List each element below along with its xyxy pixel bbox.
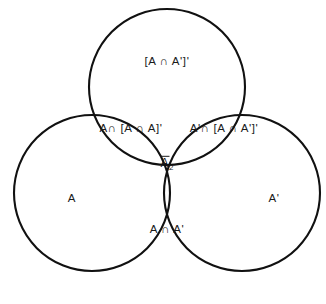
top-circle [89, 9, 245, 165]
left-circle [14, 115, 170, 271]
right-circle [164, 115, 320, 271]
label-bottom-region: A ∩ A' [150, 224, 185, 236]
label-right-circle: A' [268, 193, 279, 205]
label-center-region: A2 [160, 156, 173, 172]
label-left-middle-region: A∩ [A ∩ A]' [99, 123, 162, 135]
venn-diagram: [A ∩ A']' A∩ [A ∩ A]' A'∩ [A ∩ A']' A2 A… [0, 0, 326, 304]
venn-circles-svg [0, 0, 326, 304]
label-top-region: [A ∩ A']' [145, 56, 190, 68]
label-right-middle-region: A'∩ [A ∩ A']' [190, 123, 259, 135]
label-center-base: A [160, 156, 169, 169]
label-left-circle: A [68, 193, 76, 205]
label-center-subscript: 2 [169, 163, 173, 172]
